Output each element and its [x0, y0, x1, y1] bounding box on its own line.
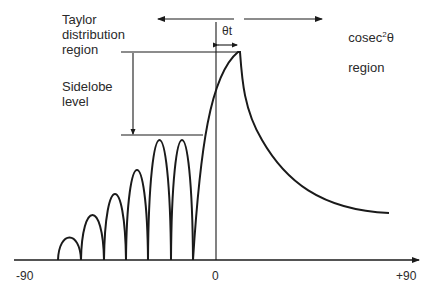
x-tick-0: 0 — [212, 269, 219, 283]
cosec-text: cosec — [348, 30, 382, 45]
taylor-region-label: Taylor distribution region — [62, 12, 125, 57]
x-tick-plus-90: +90 — [396, 269, 416, 283]
sidelobe-level-label: Sidelobe level — [62, 79, 113, 109]
x-tick-minus-90: -90 — [16, 269, 33, 283]
main-beam — [193, 52, 389, 260]
cosec-region-word: region — [348, 60, 384, 75]
sidelobes — [58, 140, 193, 260]
cosec-region-label: cosec2θ region — [341, 12, 394, 75]
theta-t-label: θt — [222, 24, 232, 39]
cosec-theta: θ — [387, 30, 394, 45]
